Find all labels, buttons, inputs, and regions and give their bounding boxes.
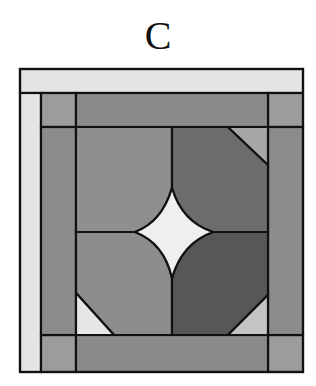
corner-square-top-right [268, 93, 303, 127]
top-band [76, 93, 268, 127]
left-band [41, 127, 76, 335]
corner-square-bottom-right [268, 335, 303, 372]
corner-square-top-left [41, 93, 76, 127]
top-light-strip [20, 69, 303, 93]
right-band [268, 127, 303, 335]
quilt-block [0, 0, 316, 386]
left-light-strip [20, 93, 41, 372]
bottom-band [76, 335, 268, 372]
corner-square-bottom-left [41, 335, 76, 372]
